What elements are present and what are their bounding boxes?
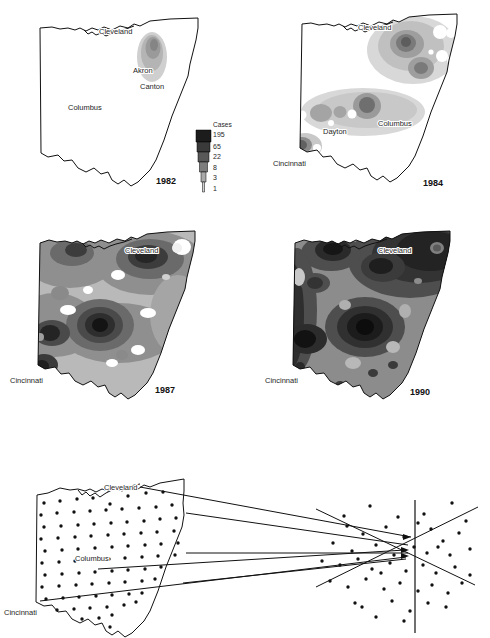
diagonal-rays — [316, 507, 478, 587]
city-label-akron: Akron — [133, 66, 153, 75]
density-surface-1987 — [13, 225, 210, 415]
city-label-canton: Canton — [140, 82, 164, 91]
city-label-cleveland: Cleveland — [104, 483, 137, 492]
legend: Cases 195 65 22 8 3 1 — [196, 121, 232, 192]
legend-value-195: 195 — [213, 131, 225, 138]
density-surface-1990 — [277, 222, 472, 420]
city-label-columbus: Columbus — [378, 119, 412, 128]
density-surface-1984 — [288, 16, 459, 159]
city-label-cleveland: Cleveland — [378, 246, 411, 255]
map-1984: Cleveland Columbus Dayton Cincinnati 198… — [245, 0, 490, 215]
legend-swatch-65 — [197, 142, 210, 152]
city-label-columbus: Columbus — [68, 103, 102, 112]
city-label-cleveland: Cleveland — [125, 246, 158, 255]
panel-dot-map-projection: Cleveland Columbus Cincinnati — [0, 455, 490, 638]
city-label-cincinnati: Cincinnati — [273, 159, 306, 168]
legend-value-22: 22 — [213, 153, 221, 160]
year-label-1982: 1982 — [156, 176, 176, 186]
map-1987: Cleveland Cincinnati 1987 — [0, 215, 245, 420]
legend-swatch-1 — [203, 182, 205, 192]
panel-1984: Cleveland Columbus Dayton Cincinnati 198… — [245, 0, 490, 215]
legend-swatch-3 — [201, 172, 206, 182]
map-dots-and-rays: Cleveland Columbus Cincinnati — [0, 455, 490, 638]
legend-value-1: 1 — [213, 185, 217, 192]
city-label-cincinnati: Cincinnati — [4, 608, 37, 617]
map-1982: Cleveland Akron Canton Columbus 1982 Cas… — [0, 0, 245, 215]
legend-title: Cases — [213, 121, 232, 128]
ohio-outline-1982 — [40, 18, 198, 186]
legend-swatch-195 — [196, 130, 211, 142]
year-label-1987: 1987 — [155, 385, 175, 395]
year-label-1984: 1984 — [423, 178, 443, 188]
panel-1987: Cleveland Cincinnati 1987 — [0, 215, 245, 420]
panel-1990: Cleveland Cincinnati 1990 — [245, 215, 490, 420]
map-1990: Cleveland Cincinnati 1990 — [245, 215, 490, 420]
projection-rays — [40, 487, 411, 601]
legend-swatch-wedge — [196, 130, 211, 192]
legend-value-65: 65 — [213, 143, 221, 150]
legend-value-8: 8 — [213, 164, 217, 171]
county-centroid-dots — [39, 490, 179, 628]
panel-1982: Cleveland Akron Canton Columbus 1982 Cas… — [0, 0, 245, 215]
city-label-cincinnati: Cincinnati — [10, 376, 43, 385]
legend-swatch-8 — [200, 162, 208, 172]
vector-scatter-dots — [320, 501, 471, 622]
city-label-columbus: Columbus — [75, 554, 109, 563]
legend-swatch-22 — [198, 152, 209, 162]
legend-value-3: 3 — [213, 174, 217, 181]
city-label-cleveland: Cleveland — [99, 27, 132, 36]
year-label-1990: 1990 — [410, 387, 430, 397]
city-label-cleveland: Cleveland — [358, 23, 391, 32]
city-label-dayton: Dayton — [323, 127, 347, 136]
city-label-cincinnati: Cincinnati — [265, 376, 298, 385]
